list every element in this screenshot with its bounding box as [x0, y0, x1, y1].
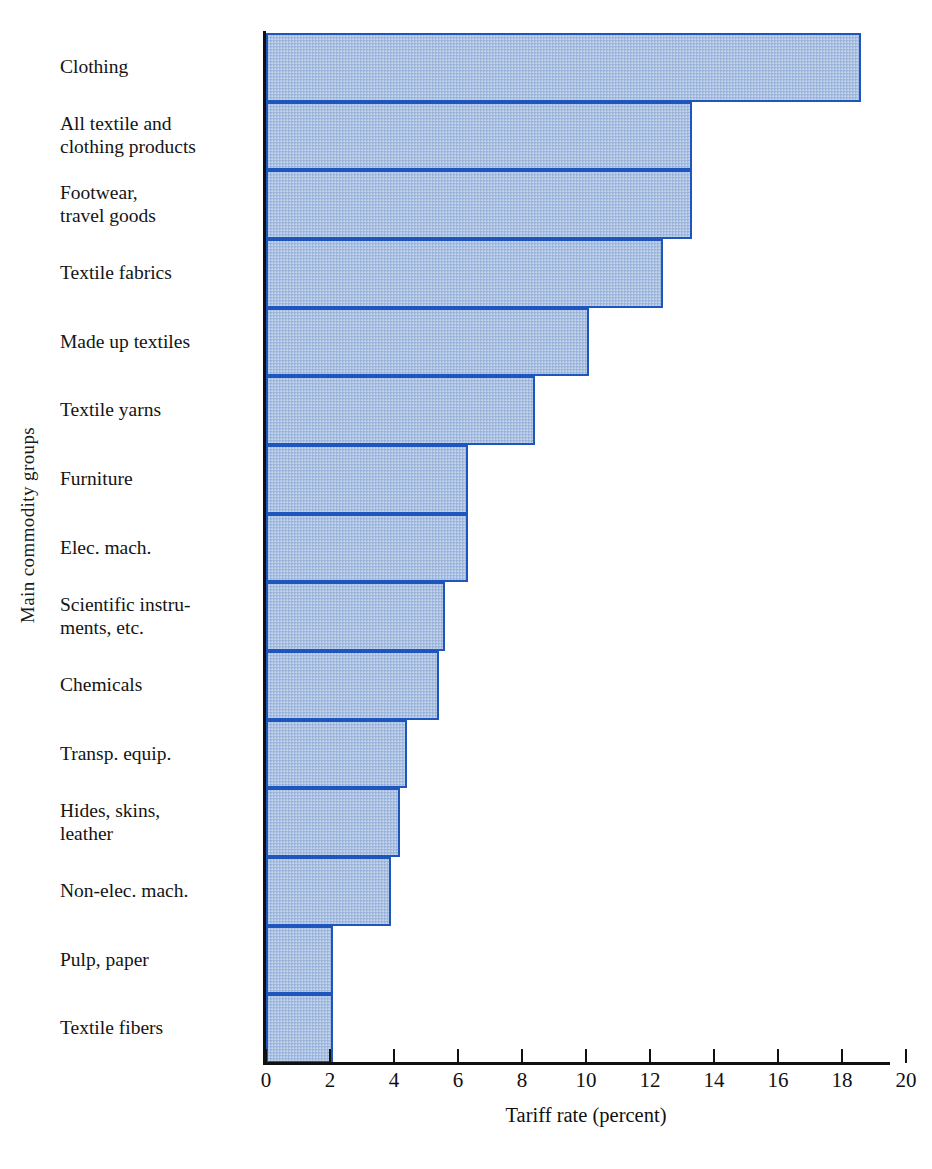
bar: [266, 788, 400, 857]
x-axis-tick: [905, 1049, 907, 1063]
bar: [266, 102, 692, 171]
bar: [266, 926, 333, 995]
bar: [266, 582, 445, 651]
x-axis-tick: [777, 1049, 779, 1063]
bar: [266, 308, 589, 377]
bar: [266, 514, 468, 583]
tariff-rate-bar-chart: Main commodity groups ClothingAll textil…: [0, 0, 932, 1169]
x-axis-tick: [841, 1049, 843, 1063]
bar: [266, 376, 535, 445]
plot-area: [266, 33, 906, 1063]
category-label: Furniture: [60, 468, 256, 491]
bar: [266, 170, 692, 239]
bar: [266, 651, 439, 720]
category-label: Transp. equip.: [60, 743, 256, 766]
x-axis-tick: [457, 1049, 459, 1063]
bar: [266, 720, 407, 789]
x-axis-line: [264, 1062, 890, 1065]
category-label: Footwear, travel goods: [60, 182, 256, 227]
x-axis-tick-label: 6: [438, 1068, 478, 1093]
x-axis-tick-label: 20: [886, 1068, 926, 1093]
category-label: Scientific instru- ments, etc.: [60, 594, 256, 639]
x-axis-tick-label: 2: [310, 1068, 350, 1093]
category-label: Hides, skins, leather: [60, 800, 256, 845]
bar: [266, 33, 861, 102]
x-axis-tick: [649, 1049, 651, 1063]
category-label: Elec. mach.: [60, 537, 256, 560]
bar: [266, 445, 468, 514]
x-axis-tick-label: 16: [758, 1068, 798, 1093]
category-label: Textile yarns: [60, 399, 256, 422]
y-axis-title-text: Main commodity groups: [17, 427, 39, 623]
category-label-column: ClothingAll textile and clothing product…: [60, 33, 256, 1063]
category-label: Pulp, paper: [60, 949, 256, 972]
category-label: All textile and clothing products: [60, 113, 256, 158]
category-label: Clothing: [60, 56, 256, 79]
category-label: Textile fibers: [60, 1017, 256, 1040]
x-axis-tick-label: 14: [694, 1068, 734, 1093]
x-axis-tick: [265, 1049, 267, 1063]
x-axis-title: Tariff rate (percent): [266, 1104, 906, 1127]
x-axis-tick-label: 0: [246, 1068, 286, 1093]
category-label: Chemicals: [60, 674, 256, 697]
category-label: Textile fabrics: [60, 262, 256, 285]
bar: [266, 857, 391, 926]
x-axis-tick: [329, 1049, 331, 1063]
y-axis-title: Main commodity groups: [0, 0, 56, 1050]
bar: [266, 994, 333, 1063]
x-axis-tick-label: 4: [374, 1068, 414, 1093]
x-axis-tick-label: 18: [822, 1068, 862, 1093]
x-axis-tick: [393, 1049, 395, 1063]
bar: [266, 239, 663, 308]
y-axis-line: [263, 31, 266, 1065]
x-axis-tick-label: 10: [566, 1068, 606, 1093]
x-axis-tick: [713, 1049, 715, 1063]
x-axis-tick: [521, 1049, 523, 1063]
category-label: Made up textiles: [60, 331, 256, 354]
x-axis-tick: [585, 1049, 587, 1063]
category-label: Non-elec. mach.: [60, 880, 256, 903]
x-axis-tick-label: 12: [630, 1068, 670, 1093]
x-axis-tick-label: 8: [502, 1068, 542, 1093]
